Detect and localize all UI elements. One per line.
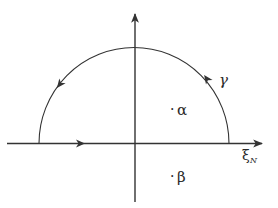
point-beta: · β [170, 168, 186, 186]
point-alpha: · α [170, 101, 187, 119]
xi-label: ξ [242, 147, 250, 163]
xi-n-axis-label: ξ N [242, 147, 258, 165]
gamma-label: γ [219, 71, 228, 89]
alpha-dot: · [170, 101, 174, 117]
contour-diagram: γ · α · β ξ N [0, 0, 278, 208]
arrow-arc-upper-right-icon [201, 73, 213, 85]
alpha-label: α [177, 101, 187, 119]
beta-dot: · [170, 168, 174, 184]
xi-subscript: N [249, 156, 258, 165]
beta-label: β [177, 168, 186, 186]
contour-gamma [39, 48, 229, 144]
